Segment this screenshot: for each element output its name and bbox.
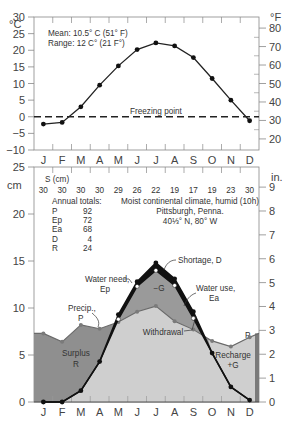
- water-budget-y-axis-right: 9876543210: [259, 181, 275, 408]
- inch-tick-label: 8: [269, 205, 275, 217]
- precip-point: [229, 345, 233, 349]
- water-need-point: [135, 279, 140, 284]
- inch-tick-label: 1: [269, 372, 275, 384]
- water-need-point: [41, 400, 46, 405]
- month-label: O: [208, 406, 217, 418]
- inch-unit-label: in.: [271, 171, 283, 183]
- annual-total-value: 72: [83, 216, 93, 225]
- inch-tick-label: 0: [269, 396, 275, 408]
- temperature-point: [228, 98, 233, 103]
- month-label: F: [59, 406, 66, 418]
- annual-total-key: Ea: [52, 225, 62, 234]
- month-label: J: [41, 154, 47, 166]
- storage-value: 30: [39, 186, 49, 195]
- temperature-point: [191, 55, 196, 60]
- minus-g-label: −G: [153, 284, 164, 293]
- precip-point: [41, 331, 45, 335]
- surplus-r-label: R: [73, 360, 79, 369]
- water-need-point: [228, 385, 233, 390]
- water-need-point: [60, 400, 65, 405]
- inch-tick-label: 3: [269, 324, 275, 336]
- month-label: J: [134, 406, 140, 418]
- temperature-y-tick-label: 10: [13, 78, 25, 90]
- inch-tick-label: 6: [269, 253, 275, 265]
- temperature-point: [78, 104, 83, 109]
- annual-total-value: 92: [83, 207, 93, 216]
- precip-point: [135, 310, 139, 314]
- water-need-label: Water need,: [85, 275, 129, 284]
- temperature-point: [60, 120, 65, 125]
- water-use-label: Water use,: [196, 284, 235, 293]
- month-label: D: [246, 406, 254, 418]
- annual-total-key: R: [52, 244, 58, 253]
- climate-title-line1: Moist continental climate, humid (10h): [121, 197, 259, 206]
- water-budget-chart: 2520151050 9876543210 JFMAMJJASOND cm in…: [7, 161, 283, 418]
- recharge-g-label: +G: [227, 361, 238, 370]
- storage-value: 29: [114, 186, 124, 195]
- inch-tick-label: 2: [269, 348, 275, 360]
- temperature-point: [172, 44, 177, 49]
- water-use-point: [154, 268, 158, 272]
- month-label: D: [246, 154, 254, 166]
- fahrenheit-tick-label: 60: [269, 59, 281, 71]
- fahrenheit-tick-label: 50: [269, 78, 281, 90]
- inch-tick-label: 7: [269, 229, 275, 241]
- water-need-point: [97, 359, 102, 364]
- recharge-label: Recharge: [215, 351, 251, 360]
- shortage-label: Shortage, D: [178, 256, 222, 265]
- temperature-point: [210, 76, 215, 81]
- month-label: J: [41, 406, 47, 418]
- temperature-chart: 302520151050−5−10 80706050403020 JFMAMJJ…: [6, 11, 281, 166]
- storage-value: 22: [151, 186, 161, 195]
- month-label: N: [227, 406, 235, 418]
- surplus-label: Surplus: [62, 349, 90, 358]
- cm-tick-label: 10: [13, 302, 25, 314]
- fahrenheit-tick-label: 40: [269, 96, 281, 108]
- precip-end-label: P: [245, 331, 251, 340]
- freezing-point-label: Freezing point: [130, 107, 183, 116]
- annual-total-value: 68: [83, 225, 93, 234]
- inch-tick-label: 4: [269, 300, 275, 312]
- temperature-point: [153, 41, 158, 46]
- storage-value: 26: [133, 186, 143, 195]
- storage-value: 23: [226, 186, 236, 195]
- temperature-point: [135, 47, 140, 52]
- annual-totals-label: Annual totals:: [52, 197, 102, 206]
- precip-point: [154, 304, 158, 308]
- storage-value: 30: [58, 186, 68, 195]
- month-label: A: [171, 406, 179, 418]
- month-label: S: [190, 406, 197, 418]
- storage-value: 30: [245, 186, 255, 195]
- temperature-y-tick-label: 15: [13, 61, 25, 73]
- storage-value: 30: [95, 186, 105, 195]
- annual-total-key: D: [52, 235, 58, 244]
- annual-total-key: Ep: [52, 216, 62, 225]
- month-label: J: [134, 154, 140, 166]
- storage-value: 19: [208, 186, 218, 195]
- annual-total-value: 24: [83, 244, 93, 253]
- withdrawal-label: Withdrawal: [143, 328, 184, 337]
- temperature-y-tick-label: 20: [13, 44, 25, 56]
- location-line1: Pittsburgh, Penna.: [156, 207, 223, 216]
- month-label: A: [96, 406, 104, 418]
- inch-tick-label: 5: [269, 277, 275, 289]
- storage-value: 19: [170, 186, 180, 195]
- fahrenheit-tick-label: 70: [269, 41, 281, 53]
- mean-annotation: Mean: 10.5° C (51° F): [48, 29, 128, 38]
- month-label: A: [171, 154, 179, 166]
- annual-total-value: 4: [87, 235, 92, 244]
- precip-label: Precip.,: [68, 304, 96, 313]
- month-label: N: [227, 154, 235, 166]
- temperature-point: [41, 122, 46, 127]
- water-use-point: [116, 317, 120, 321]
- precip-point: [173, 319, 177, 323]
- cm-tick-label: 20: [13, 208, 25, 220]
- location-line2: 40⅓° N, 80° W: [163, 217, 218, 226]
- temperature-y-tick-label: 0: [19, 111, 25, 123]
- cm-tick-label: 25: [13, 161, 25, 173]
- storage-value: 30: [76, 186, 86, 195]
- precip-point: [79, 323, 83, 327]
- month-label: M: [114, 154, 123, 166]
- water-need-ep-label: Ep: [100, 285, 110, 294]
- range-annotation: Range: 12 C° (21 F°): [48, 39, 125, 48]
